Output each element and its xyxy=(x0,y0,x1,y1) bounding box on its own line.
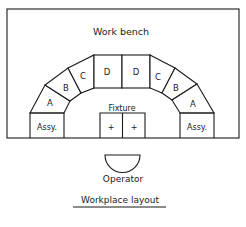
fixture-left-mark: + xyxy=(108,123,115,132)
segment-right-c-label: C xyxy=(155,72,161,82)
segment-right-a-label: A xyxy=(190,99,196,109)
work-bench-label: Work bench xyxy=(93,26,149,37)
operator-icon xyxy=(105,155,140,173)
fixture-right-mark: + xyxy=(131,123,138,132)
workplace-layout-diagram: Work bench A B C D D C B A Assy. Assy. F… xyxy=(0,0,246,227)
assy-right-label: Assy. xyxy=(187,123,207,132)
segment-left-b-label: B xyxy=(63,83,69,93)
segment-right-b-label: B xyxy=(173,83,179,93)
fixture-label: Fixture xyxy=(108,104,135,113)
operator-label: Operator xyxy=(103,174,144,184)
assy-left-label: Assy. xyxy=(37,123,57,132)
segment-left-d-label: D xyxy=(104,67,111,77)
segment-left-c-label: C xyxy=(80,71,86,81)
segment-right-d-label: D xyxy=(133,67,140,77)
segment-left-a-label: A xyxy=(47,98,53,108)
diagram-caption: Workplace layout xyxy=(81,195,159,205)
